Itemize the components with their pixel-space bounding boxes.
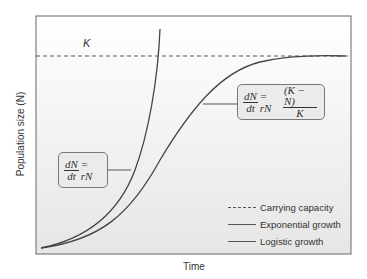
fraction-numerator: (K − N) [283,85,317,108]
equation-rhs: = rN [81,158,102,182]
dashed-line-swatch [228,207,256,208]
legend-label: Logistic growth [260,236,323,247]
fraction-denominator: dt [246,103,255,114]
equation-rhs: = rN [260,90,280,114]
x-axis-label: Time [183,261,205,272]
derivative-fraction: dN dt [64,159,79,182]
fraction-numerator: dN [243,91,258,103]
fraction-denominator: dt [67,171,76,182]
solid-line-swatch [228,241,256,242]
chart-root: K dN dt = rN dN dt = rN (K − N) K Carryi… [0,0,367,279]
legend-label: Exponential growth [260,219,341,230]
y-axis-label: Population size (N) [15,92,26,176]
fraction-numerator: dN [64,159,79,171]
legend: Carrying capacity Exponential growth Log… [228,199,341,250]
logistic-equation-box: dN dt = rN (K − N) K [237,84,325,120]
k-label: K [83,37,90,49]
legend-item-logistic: Logistic growth [228,233,341,250]
exponential-equation-box: dN dt = rN [58,152,108,188]
legend-item-carrying-capacity: Carrying capacity [228,199,341,216]
legend-label: Carrying capacity [260,202,333,213]
solid-line-swatch [228,224,256,225]
logistic-fraction: (K − N) K [283,85,317,119]
derivative-fraction: dN dt [243,91,258,114]
legend-item-exponential: Exponential growth [228,216,341,233]
fraction-denominator: K [296,108,303,119]
